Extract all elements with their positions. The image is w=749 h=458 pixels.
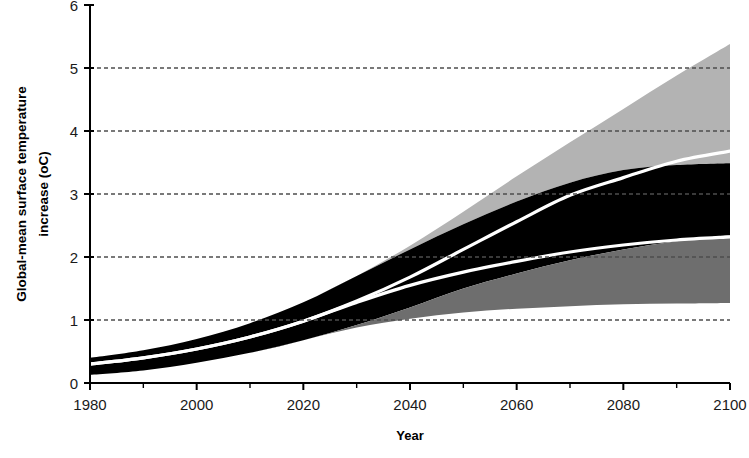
x-tick-label-2100: 2100 <box>713 396 746 413</box>
y-tick-label-3: 3 <box>70 186 78 203</box>
y-axis-title-line-1: Global-mean surface temperature <box>14 86 29 302</box>
x-tick-label-2000: 2000 <box>180 396 213 413</box>
y-axis-title-line-2: increase (oC) <box>36 151 51 237</box>
y-tick-label-4: 4 <box>70 123 78 140</box>
x-tick-label-2060: 2060 <box>500 396 533 413</box>
y-tick-label-0: 0 <box>70 375 78 392</box>
x-axis-title: Year <box>396 428 423 443</box>
temperature-projection-chart: 01234561980200020202040206020802100YearG… <box>0 0 749 458</box>
x-tick-label-1980: 1980 <box>73 396 106 413</box>
y-tick-label-5: 5 <box>70 60 78 77</box>
y-tick-label-1: 1 <box>70 312 78 329</box>
y-tick-label-2: 2 <box>70 249 78 266</box>
chart-container: 01234561980200020202040206020802100YearG… <box>0 0 749 458</box>
x-tick-label-2080: 2080 <box>607 396 640 413</box>
x-tick-label-2020: 2020 <box>287 396 320 413</box>
y-axis-title: Global-mean surface temperatureincrease … <box>14 86 51 302</box>
x-tick-label-2040: 2040 <box>393 396 426 413</box>
y-tick-label-6: 6 <box>70 0 78 14</box>
